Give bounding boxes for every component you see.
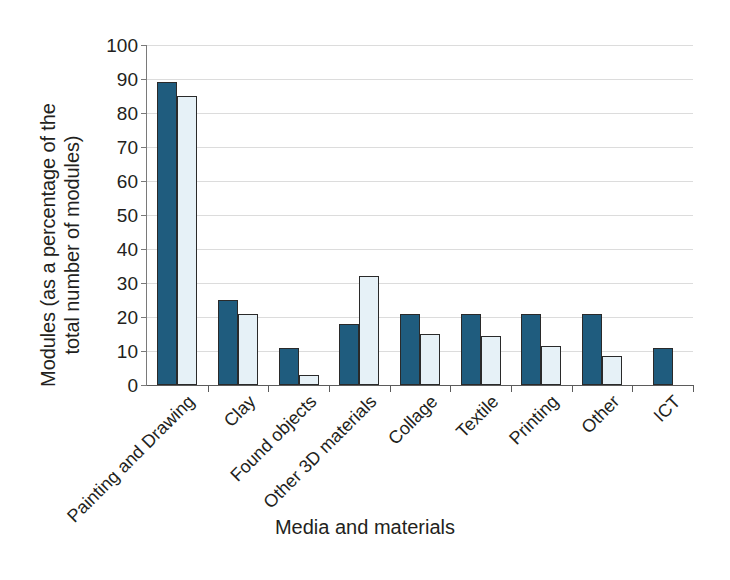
y-tick-label-80: 80 [78, 104, 138, 123]
y-tick-label-100: 100 [78, 36, 138, 55]
bar-series-1-2 [279, 348, 299, 385]
x-tick-1 [268, 385, 269, 392]
y-tick-20 [141, 317, 147, 318]
x-tick-8 [693, 385, 694, 392]
x-label-other: Other [578, 392, 623, 437]
gridline-40 [147, 249, 693, 250]
x-tick-5 [511, 385, 512, 392]
y-tick-label-20: 20 [78, 308, 138, 327]
x-label-painting-and-drawing: Painting and Drawing [64, 392, 198, 526]
x-tick-6 [572, 385, 573, 392]
y-tick-60 [141, 181, 147, 182]
bar-series-2-2 [299, 375, 319, 385]
bar-series-1-1 [218, 300, 238, 385]
y-tick-label-70: 70 [78, 138, 138, 157]
y-tick-80 [141, 113, 147, 114]
x-label-clay: Clay [221, 392, 259, 430]
bar-series-1-4 [400, 314, 420, 385]
y-tick-100 [141, 45, 147, 46]
x-label-textile: Textile [453, 392, 502, 441]
y-tick-30 [141, 283, 147, 284]
bar-series-2-1 [238, 314, 258, 385]
plot-area [147, 45, 693, 385]
x-axis-line [146, 385, 693, 386]
y-tick-50 [141, 215, 147, 216]
bar-series-2-4 [420, 334, 440, 385]
bar-series-1-6 [521, 314, 541, 385]
x-tick-3 [390, 385, 391, 392]
bar-series-2-5 [481, 336, 501, 385]
bar-series-2-0 [177, 96, 197, 385]
bar-series-1-8 [653, 348, 673, 385]
x-label-other-3d-materials: Other 3D materials [261, 392, 381, 512]
y-tick-label-10: 10 [78, 342, 138, 361]
bar-series-2-7 [602, 356, 622, 385]
bar-series-1-5 [461, 314, 481, 385]
gridline-90 [147, 79, 693, 80]
y-tick-90 [141, 79, 147, 80]
bar-chart-figure: Modules (as a percentage of the total nu… [0, 0, 730, 580]
gridline-50 [147, 215, 693, 216]
gridline-30 [147, 283, 693, 284]
bar-series-1-0 [157, 82, 177, 385]
bar-series-1-3 [339, 324, 359, 385]
y-tick-10 [141, 351, 147, 352]
x-tick-7 [632, 385, 633, 392]
y-tick-label-40: 40 [78, 240, 138, 259]
y-tick-70 [141, 147, 147, 148]
x-tick-4 [450, 385, 451, 392]
gridline-100 [147, 45, 693, 46]
x-tick-2 [329, 385, 330, 392]
bar-series-1-7 [582, 314, 602, 385]
y-tick-label-50: 50 [78, 206, 138, 225]
x-label-printing: Printing [506, 392, 562, 448]
bar-series-2-3 [359, 276, 379, 385]
gridline-80 [147, 113, 693, 114]
y-tick-40 [141, 249, 147, 250]
y-tick-label-90: 90 [78, 70, 138, 89]
y-tick-label-0: 0 [78, 376, 138, 395]
gridline-60 [147, 181, 693, 182]
bar-series-2-6 [541, 346, 561, 385]
y-tick-0 [141, 385, 147, 386]
x-axis-title: Media and materials [0, 516, 730, 539]
y-tick-label-30: 30 [78, 274, 138, 293]
x-label-collage: Collage [385, 392, 441, 448]
x-label-ict: ICT [650, 392, 683, 425]
gridline-70 [147, 147, 693, 148]
x-tick-0 [208, 385, 209, 392]
y-tick-label-60: 60 [78, 172, 138, 191]
